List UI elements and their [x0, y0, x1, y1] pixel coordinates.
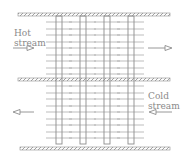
arrow-left-icon [13, 110, 34, 115]
hot-stream-label: Hot stream [14, 28, 46, 48]
cold-stream-label: Cold stream [148, 91, 180, 111]
fins-upper [46, 22, 144, 74]
hot-stream-label-line1: Hot [14, 28, 46, 38]
heat-exchanger-diagram [0, 0, 183, 159]
cold-stream-label-line2: stream [148, 101, 180, 111]
cold-stream-label-line1: Cold [148, 91, 180, 101]
hot-stream-label-line2: stream [14, 38, 46, 48]
arrow-right-icon [148, 46, 172, 51]
fins-lower [46, 86, 144, 138]
top-wall [18, 13, 170, 16]
middle-wall [18, 78, 170, 81]
bottom-wall [20, 147, 170, 150]
